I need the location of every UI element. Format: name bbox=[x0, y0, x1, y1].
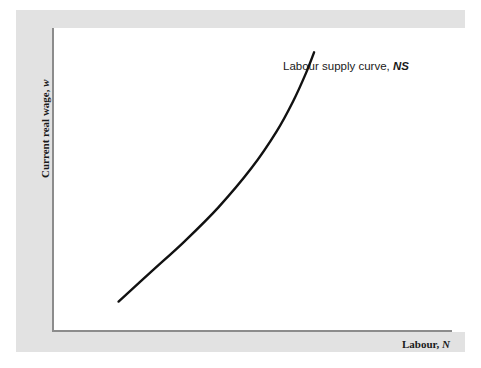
plot-area bbox=[52, 28, 468, 332]
y-axis-title: Current real wage, w bbox=[38, 28, 52, 178]
y-axis-title-text: Current real wage, bbox=[39, 87, 51, 178]
x-axis-variable: N bbox=[442, 338, 450, 350]
x-axis-title: Labour, N bbox=[402, 338, 450, 350]
curve-annotation-text: Labour supply curve, bbox=[283, 60, 393, 72]
x-axis-line bbox=[52, 330, 452, 332]
y-axis-variable: w bbox=[39, 79, 51, 86]
y-axis-line bbox=[52, 28, 54, 332]
curve-annotation-label: Labour supply curve, NS bbox=[283, 60, 409, 72]
curve-annotation-variable: NS bbox=[393, 60, 409, 72]
figure-panel: Current real wage, w Labour, N Labour su… bbox=[16, 10, 465, 352]
x-axis-title-text: Labour, bbox=[402, 338, 442, 350]
